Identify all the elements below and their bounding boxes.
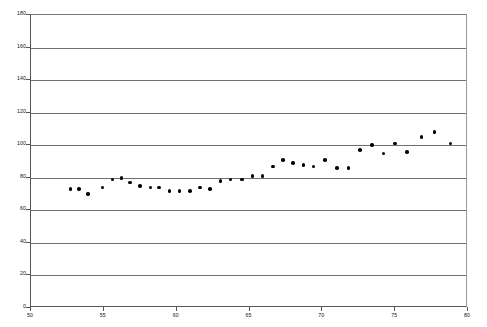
y-tick-label: 60 — [2, 206, 26, 211]
x-tick-label: 50 — [27, 313, 33, 318]
data-point — [168, 189, 172, 193]
x-tick-label: 60 — [173, 313, 179, 318]
data-point — [405, 150, 409, 154]
data-point — [149, 186, 153, 190]
data-point — [281, 158, 285, 162]
gridline — [31, 113, 466, 114]
gridline — [31, 210, 466, 211]
x-tick-label: 75 — [391, 313, 397, 318]
data-point — [86, 192, 90, 196]
data-point — [138, 184, 142, 188]
data-point — [198, 186, 202, 190]
gridline — [31, 48, 466, 49]
gridline — [31, 145, 466, 146]
y-tick-label: 80 — [2, 174, 26, 179]
x-tick-mark — [321, 307, 322, 311]
y-tick-label: 100 — [2, 141, 26, 146]
gridline — [31, 178, 466, 179]
y-tick-label: 20 — [2, 271, 26, 276]
data-point — [323, 158, 327, 162]
data-point — [420, 135, 424, 139]
data-point — [120, 176, 124, 180]
x-tick-mark — [394, 307, 395, 311]
y-tick-mark — [26, 307, 30, 308]
y-tick-label: 160 — [2, 44, 26, 49]
data-point — [312, 165, 316, 169]
x-tick-mark — [249, 307, 250, 311]
data-point — [347, 166, 351, 170]
data-point — [229, 178, 233, 182]
data-point — [335, 166, 339, 170]
y-tick-label: 40 — [2, 239, 26, 244]
x-tick-mark — [176, 307, 177, 311]
data-point — [208, 187, 212, 191]
y-tick-label: 0 — [2, 304, 26, 309]
data-point — [358, 148, 362, 152]
data-point — [157, 186, 161, 190]
x-tick-mark — [103, 307, 104, 311]
x-tick-mark — [467, 307, 468, 311]
data-point — [382, 152, 386, 156]
y-tick-label: 180 — [2, 11, 26, 16]
x-tick-label: 80 — [464, 313, 470, 318]
x-tick-label: 70 — [318, 313, 324, 318]
data-point — [219, 179, 223, 183]
gridline — [31, 243, 466, 244]
y-tick-label: 140 — [2, 76, 26, 81]
data-point — [69, 187, 73, 191]
data-point — [111, 178, 115, 182]
x-tick-label: 65 — [246, 313, 252, 318]
data-point — [251, 174, 255, 178]
plot-area — [30, 14, 467, 307]
data-point — [101, 186, 105, 190]
gridline — [31, 80, 466, 81]
x-tick-mark — [30, 307, 31, 311]
data-point — [271, 165, 275, 169]
data-point — [291, 161, 295, 165]
data-point — [240, 178, 244, 182]
data-point — [178, 189, 182, 193]
data-point — [128, 181, 132, 185]
gridline — [31, 275, 466, 276]
data-point — [188, 189, 192, 193]
data-point — [77, 187, 81, 191]
data-point — [433, 130, 437, 134]
x-tick-label: 55 — [100, 313, 106, 318]
y-tick-label: 120 — [2, 109, 26, 114]
scatter-chart: 020406080100120140160180 50556065707580 — [0, 0, 487, 327]
data-point — [302, 163, 306, 167]
data-point — [370, 143, 374, 147]
